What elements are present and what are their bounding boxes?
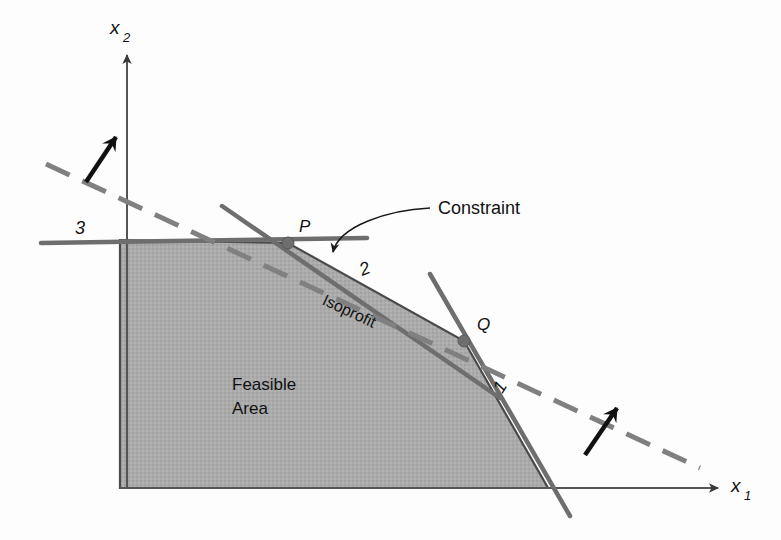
figure-root: x 1 x 2 1 2 3 Isoprofit P Q Feasible Are…	[0, 0, 781, 540]
x2-axis-subscript: 2	[122, 30, 131, 45]
constraint-callout-label: Constraint	[438, 198, 520, 218]
improvement-arrow-lower-right	[585, 408, 617, 455]
constraint-callout-leader	[333, 208, 430, 252]
feasible-area-label-line1: Feasible	[232, 375, 296, 394]
improvement-arrow-upper-left	[86, 137, 116, 182]
constraint-label-3: 3	[75, 218, 85, 238]
x1-axis-label: x	[730, 475, 742, 496]
x1-axis-subscript: 1	[744, 488, 751, 503]
constraint-label-2: 2	[355, 257, 373, 280]
vertex-point-P	[282, 237, 294, 249]
feasible-area-label-line2: Area	[232, 399, 268, 418]
constraint-callout-group	[333, 208, 430, 252]
vertex-label-Q: Q	[477, 315, 490, 334]
vertex-label-P: P	[299, 217, 311, 236]
lp-feasible-area-diagram: x 1 x 2 1 2 3 Isoprofit P Q Feasible Are…	[0, 0, 781, 540]
x2-axis-label: x	[109, 17, 121, 38]
vertex-point-Q	[458, 335, 470, 347]
